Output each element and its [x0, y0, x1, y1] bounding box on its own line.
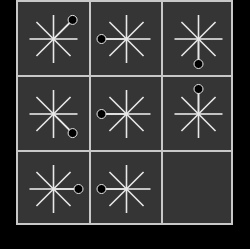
dot-marker-icon — [97, 185, 106, 194]
dot-marker-icon — [194, 60, 203, 69]
dot-marker-icon — [68, 129, 77, 138]
star-icon — [91, 2, 162, 75]
dot-marker-icon — [97, 110, 106, 119]
puzzle-cell-r2c3 — [163, 77, 234, 150]
star-icon — [163, 77, 234, 150]
dot-marker-icon — [194, 85, 203, 94]
puzzle-cell-r3c1 — [18, 152, 89, 225]
star-icon — [91, 152, 162, 225]
dot-marker-icon — [97, 35, 106, 44]
dot-marker-icon — [68, 15, 77, 24]
star-icon — [18, 77, 89, 150]
star-icon — [163, 2, 234, 75]
puzzle-cell-r3c2 — [91, 152, 162, 225]
star-icon — [91, 77, 162, 150]
puzzle-grid — [16, 0, 233, 225]
empty-answer-cell — [163, 152, 234, 225]
star-icon — [18, 2, 89, 75]
puzzle-cell-r1c3 — [163, 2, 234, 75]
dot-marker-icon — [74, 185, 83, 194]
puzzle-cell-r1c1 — [18, 2, 89, 75]
puzzle-cell-r1c2 — [91, 2, 162, 75]
puzzle-cell-r2c1 — [18, 77, 89, 150]
star-icon — [18, 152, 89, 225]
puzzle-cell-r2c2 — [91, 77, 162, 150]
